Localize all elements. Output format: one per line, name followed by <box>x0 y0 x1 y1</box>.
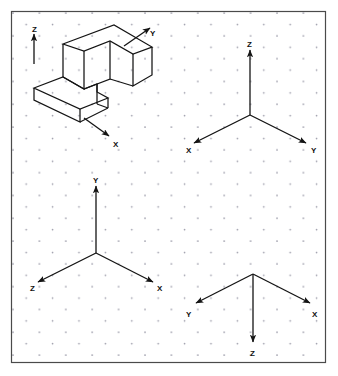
triad2-x-label: X <box>186 147 191 155</box>
isometric-dot-grid <box>11 11 326 363</box>
triad3-z-label: Z <box>30 285 35 293</box>
figure1-z-label: Z <box>32 26 37 34</box>
triad4-y-label: Y <box>186 311 191 319</box>
triad3-x-label: X <box>157 285 162 293</box>
triad3-y-label: Y <box>93 177 98 185</box>
figure1-x-label: X <box>113 141 118 149</box>
drawing-sheet: Z Y X Z X Y Y Z X Y X Z <box>0 0 338 376</box>
triad2-z-label: Z <box>247 41 252 49</box>
figure1-y-label: Y <box>150 30 155 38</box>
triad2-y-label: Y <box>311 147 316 155</box>
triad4-z-label: Z <box>250 350 255 358</box>
drawing-canvas <box>0 0 338 376</box>
triad4-x-label: X <box>312 311 317 319</box>
